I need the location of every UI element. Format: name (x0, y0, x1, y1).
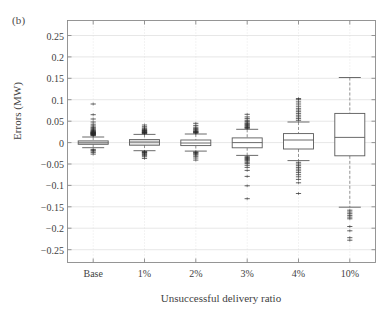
boxplot-figure: (b) Errors (MW) Unsuccessful delivery ra… (0, 0, 390, 313)
plot-canvas (0, 0, 390, 313)
box-10%[interactable] (335, 113, 365, 155)
box-4%[interactable] (284, 134, 314, 149)
